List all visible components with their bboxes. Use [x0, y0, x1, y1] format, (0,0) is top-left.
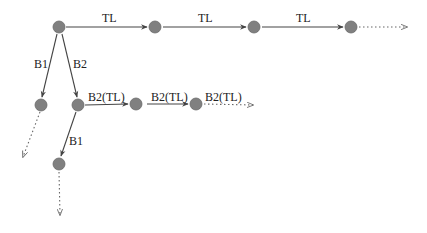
node-tl-2 — [248, 21, 260, 33]
label-b2tl-3: B2(TL) — [205, 90, 242, 104]
node-b2-b1 — [53, 158, 65, 170]
node-b2 — [72, 99, 84, 111]
node-tl-1 — [149, 21, 161, 33]
label-tl-1: TL — [102, 11, 117, 25]
tree-diagram: TL TL TL B1 B2 B2(TL) B2(TL) B2(TL) B1 — [0, 0, 427, 233]
label-b2-top: B2 — [73, 57, 87, 71]
edge-n5-n6 — [85, 104, 128, 105]
label-tl-2: TL — [198, 11, 213, 25]
label-b2tl-1: B2(TL) — [88, 90, 125, 104]
edge-n7-continue — [204, 104, 253, 105]
label-b2tl-2: B2(TL) — [151, 90, 188, 104]
edge-n8-continue — [59, 172, 60, 215]
label-tl-3: TL — [296, 11, 311, 25]
node-b2tl-1 — [130, 98, 142, 110]
edge-n4-continue — [23, 112, 40, 157]
label-b1-lower: B1 — [69, 134, 83, 148]
diagram-svg: TL TL TL B1 B2 B2(TL) B2(TL) B2(TL) B1 — [0, 0, 427, 233]
node-tl-3 — [345, 21, 357, 33]
node-b2tl-2 — [190, 98, 202, 110]
node-b1 — [35, 99, 47, 111]
label-b1-top: B1 — [34, 57, 48, 71]
node-root — [53, 21, 65, 33]
